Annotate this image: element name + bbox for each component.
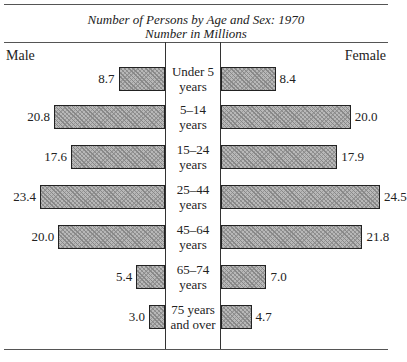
female-bar (221, 185, 380, 209)
male-bar (149, 305, 165, 329)
female-bar (221, 145, 337, 169)
age-group-label: 15–24years (166, 142, 220, 172)
header-rule (4, 42, 388, 43)
age-group-label: 45–64years (166, 222, 220, 252)
female-value-label: 7.0 (270, 265, 286, 289)
age-group-label: 65–74years (166, 262, 220, 292)
male-label: Male (6, 48, 35, 64)
female-bar (221, 105, 351, 129)
female-value-label: 21.8 (366, 225, 389, 249)
male-bar (136, 265, 165, 289)
female-bar (221, 67, 276, 91)
female-value-label: 4.7 (256, 305, 272, 329)
male-value-label: 17.6 (44, 145, 67, 169)
age-group-label: 25–44years (166, 182, 220, 212)
age-group-label: Under 5years (166, 64, 220, 94)
top-rule (4, 4, 388, 5)
female-value-label: 17.9 (341, 145, 364, 169)
female-bar (221, 225, 362, 249)
chart-subtitle: Number in Millions (0, 26, 392, 41)
age-group-label: 75 yearsand over (166, 302, 220, 332)
male-bar (58, 225, 165, 249)
age-group-label: 5–14years (166, 102, 220, 132)
female-label: Female (345, 48, 386, 64)
male-bar (54, 105, 165, 129)
male-value-label: 20.0 (31, 225, 54, 249)
female-bar (221, 305, 252, 329)
female-value-label: 20.0 (355, 105, 378, 129)
male-value-label: 23.4 (13, 185, 36, 209)
bottom-rule (4, 349, 388, 350)
male-value-label: 20.8 (27, 105, 50, 129)
male-value-label: 5.4 (116, 265, 132, 289)
chart-title: Number of Persons by Age and Sex: 1970 (0, 12, 392, 27)
female-value-label: 24.5 (384, 185, 407, 209)
male-bar (40, 185, 165, 209)
male-bar (119, 67, 165, 91)
male-bar (71, 145, 165, 169)
male-value-label: 8.7 (98, 67, 114, 91)
female-bar (221, 265, 266, 289)
female-value-label: 8.4 (280, 67, 296, 91)
male-value-label: 3.0 (129, 305, 145, 329)
